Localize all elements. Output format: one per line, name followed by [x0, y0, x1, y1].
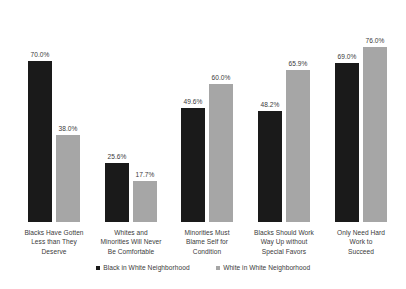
category-axis: Blacks Have Gotten Less than They Deserv…	[0, 228, 406, 260]
bar-white-in-white-neighborhood[interactable]	[286, 70, 310, 222]
bar-column: 65.9%	[286, 70, 310, 222]
bar-column: 60.0%	[209, 84, 233, 222]
bar-black-in-white-neighborhood[interactable]	[28, 61, 52, 222]
bar-value-label: 48.2%	[250, 101, 290, 109]
bar-black-in-white-neighborhood[interactable]	[335, 63, 359, 222]
legend-label: Black in White Neighborhood	[103, 264, 189, 272]
bar-value-label: 49.6%	[173, 98, 213, 106]
bar-black-in-white-neighborhood[interactable]	[258, 111, 282, 222]
bar-column: 17.7%	[133, 181, 157, 222]
bar-group: 48.2% 65.9%	[258, 0, 310, 222]
bar-column: 48.2%	[258, 111, 282, 222]
bar-white-in-white-neighborhood[interactable]	[133, 181, 157, 222]
category-line: Succeed	[313, 247, 406, 256]
chart-legend: Black in White Neighborhood White in Whi…	[0, 262, 406, 274]
bar-value-label: 70.0%	[20, 51, 60, 59]
bar-column: 70.0%	[28, 61, 52, 222]
bar-value-label: 17.7%	[125, 171, 165, 179]
bar-column: 76.0%	[363, 47, 387, 222]
bar-white-in-white-neighborhood[interactable]	[209, 84, 233, 222]
bar-column: 38.0%	[56, 135, 80, 222]
bar-group: 25.6% 17.7%	[105, 0, 157, 222]
legend-swatch-icon	[96, 266, 101, 271]
legend-item-black-in-white-neighborhood[interactable]: Black in White Neighborhood	[96, 264, 190, 272]
bar-black-in-white-neighborhood[interactable]	[181, 108, 205, 222]
bar-group: 70.0% 38.0%	[28, 0, 80, 222]
bar-chart: 70.0% 38.0% 25.6% 17.7% 49.6%	[0, 0, 406, 289]
legend-item-white-in-white-neighborhood[interactable]: White in White Neighborhood	[216, 264, 311, 272]
bar-group: 49.6% 60.0%	[181, 0, 233, 222]
bar-group: 69.0% 76.0%	[335, 0, 387, 222]
bar-white-in-white-neighborhood[interactable]	[363, 47, 387, 222]
bar-value-label: 76.0%	[355, 37, 395, 45]
bar-column: 69.0%	[335, 63, 359, 222]
plot-area: 70.0% 38.0% 25.6% 17.7% 49.6%	[0, 0, 406, 222]
bar-value-label: 69.0%	[327, 53, 367, 61]
bar-white-in-white-neighborhood[interactable]	[56, 135, 80, 222]
category-line: Only Need Hard	[313, 228, 406, 237]
bar-value-label: 60.0%	[201, 74, 241, 82]
bar-value-label: 65.9%	[278, 60, 318, 68]
bar-value-label: 25.6%	[97, 153, 137, 161]
bar-column: 49.6%	[181, 108, 205, 222]
category-label-4: Only Need Hard Work to Succeed	[313, 228, 406, 256]
bar-value-label: 38.0%	[48, 125, 88, 133]
legend-swatch-icon	[216, 266, 221, 271]
legend-label: White in White Neighborhood	[223, 264, 310, 272]
category-line: Work to	[313, 237, 406, 246]
